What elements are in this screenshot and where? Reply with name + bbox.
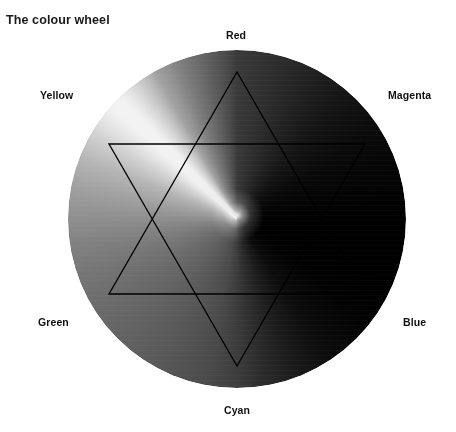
additive-triangle	[109, 72, 365, 294]
wheel-label-red: Red	[226, 29, 246, 41]
hexagram-overlay	[68, 50, 406, 388]
wheel-label-yellow: Yellow	[40, 89, 73, 101]
subtractive-triangle	[109, 144, 365, 366]
wheel-area	[68, 50, 406, 388]
wheel-label-blue: Blue	[403, 316, 426, 328]
page-title: The colour wheel	[6, 13, 110, 27]
colour-wheel-figure: The colour wheel Red Magenta Blue Cyan G…	[0, 0, 456, 432]
wheel-label-magenta: Magenta	[388, 89, 431, 101]
wheel-label-cyan: Cyan	[224, 404, 250, 416]
wheel-label-green: Green	[38, 316, 69, 328]
